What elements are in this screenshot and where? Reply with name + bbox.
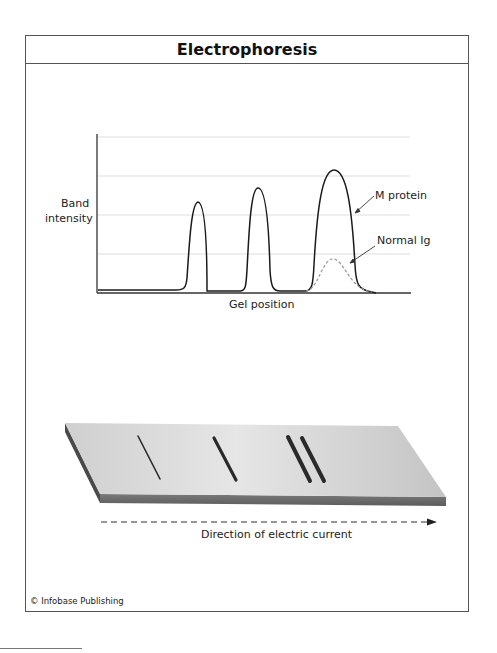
y-axis-label-line2: intensity	[45, 212, 93, 225]
chart-axes	[97, 134, 411, 293]
normal-ig-curve	[306, 259, 372, 292]
m-protein-label: M protein	[375, 189, 427, 202]
electrophoresis-diagram	[0, 0, 497, 653]
m-protein-curve	[98, 170, 376, 293]
x-axis-label: Gel position	[229, 298, 294, 311]
direction-label: Direction of electric current	[201, 528, 352, 541]
gel-top-face	[65, 423, 446, 497]
direction-arrow	[101, 519, 437, 526]
normal-ig-label: Normal Ig	[377, 234, 431, 247]
footnote-rule	[0, 648, 82, 649]
copyright-credit: © Infobase Publishing	[30, 596, 124, 606]
y-axis-label-line1: Band	[61, 197, 89, 210]
gel-slab	[65, 423, 446, 506]
